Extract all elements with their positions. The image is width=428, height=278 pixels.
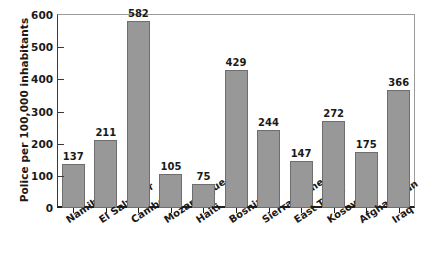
bar bbox=[225, 70, 248, 208]
bars-layer: 137Namibia211El Salvador582Cambodia105Mo… bbox=[0, 0, 428, 278]
y-axis-tick-mark bbox=[57, 176, 64, 177]
bar bbox=[62, 164, 85, 208]
bar bbox=[127, 21, 150, 208]
bar bbox=[355, 152, 378, 208]
bar bbox=[290, 161, 313, 208]
bar-value-label: 147 bbox=[281, 148, 321, 159]
bar-value-label: 211 bbox=[86, 127, 126, 138]
bar-value-label: 272 bbox=[314, 108, 354, 119]
y-axis-tick-mark bbox=[57, 79, 64, 80]
bar-value-label: 366 bbox=[379, 77, 419, 88]
bar bbox=[387, 90, 410, 208]
bar bbox=[322, 121, 345, 208]
bar-chart: Police per 100,000 inhabitants 010020030… bbox=[0, 0, 428, 278]
bar-value-label: 244 bbox=[249, 117, 289, 128]
bar-value-label: 175 bbox=[346, 139, 386, 150]
y-axis-tick-mark bbox=[57, 47, 64, 48]
bar-value-label: 137 bbox=[53, 151, 93, 162]
bar bbox=[257, 130, 280, 208]
y-axis-tick-mark bbox=[57, 112, 64, 113]
y-axis-tick-mark bbox=[57, 144, 64, 145]
bar-value-label: 75 bbox=[183, 171, 223, 182]
bar-value-label: 429 bbox=[216, 57, 256, 68]
bar bbox=[94, 140, 117, 208]
bar-value-label: 582 bbox=[118, 8, 158, 19]
